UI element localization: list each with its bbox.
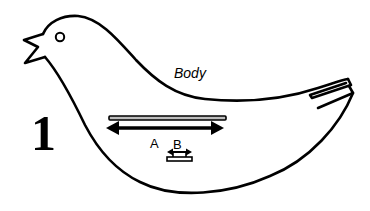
dimension-a-label: A: [150, 136, 159, 151]
part-label: Body: [174, 65, 207, 81]
bird-outline: [24, 16, 353, 193]
slot-bar: [109, 116, 226, 120]
step-number: 1: [31, 105, 56, 161]
dimension-b-label: B: [173, 137, 182, 152]
dimension-a-arrow-icon: [106, 121, 224, 135]
bird-body-diagram: Body A B 1: [0, 0, 370, 211]
eye-icon: [56, 33, 64, 41]
